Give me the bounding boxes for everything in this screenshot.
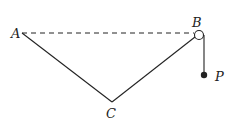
segment-cb xyxy=(112,37,195,102)
label-c: C xyxy=(106,106,116,121)
diagram-canvas: A B C P xyxy=(0,0,241,127)
label-b: B xyxy=(191,15,202,30)
label-a: A xyxy=(10,26,20,41)
mass-p-icon xyxy=(201,72,207,78)
label-p: P xyxy=(214,69,224,84)
pulley-icon xyxy=(195,31,204,40)
segment-ac xyxy=(22,33,112,102)
